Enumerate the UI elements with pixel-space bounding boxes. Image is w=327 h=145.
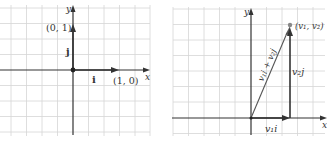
i-endpoint-label: (1, 0) [113, 75, 139, 86]
x-axis-label: x [145, 72, 150, 82]
y-axis-label: y [243, 7, 250, 17]
horizontal-component-vector [251, 115, 290, 121]
i-vector-label: i [92, 74, 96, 85]
x-axis-label: x [322, 120, 327, 130]
point-label: (v₁, v₂) [295, 21, 323, 31]
unit-vectors-diagram: x y i j (1, 0) (0, 1) [0, 0, 160, 145]
vertical-component-label: v₂j [292, 66, 304, 77]
origin-point [250, 117, 253, 120]
i-vector [73, 67, 119, 73]
vector-components-diagram: x y (v₁, v₂) v₁i v₂j v₁i + v₂j [165, 0, 327, 145]
j-vector-label: j [65, 46, 70, 57]
j-endpoint-label: (0, 1) [46, 22, 72, 33]
horizontal-component-label: v₁i [265, 123, 277, 134]
terminal-point [288, 23, 292, 27]
vector-components-plot: x y (v₁, v₂) v₁i v₂j v₁i + v₂j [165, 0, 327, 145]
y-axis [249, 8, 254, 135]
origin-point [71, 68, 76, 73]
unit-vectors-plot: x y i j (1, 0) (0, 1) [0, 0, 160, 145]
y-axis-label: y [65, 4, 72, 14]
resultant-vector-label: v₁i + v₂j [256, 47, 279, 83]
